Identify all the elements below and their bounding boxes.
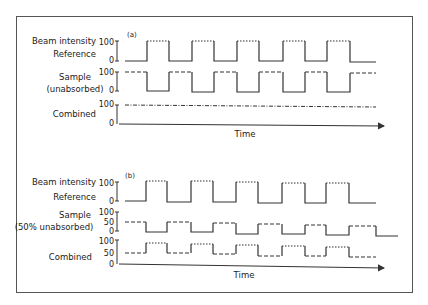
label-beam-intensity-b: Beam intensity: [32, 177, 96, 187]
tick-0: 0: [109, 86, 114, 95]
panel-a-label: (a): [127, 31, 137, 39]
label-combined-b: Combined: [49, 252, 92, 262]
tick-100: 100: [99, 208, 114, 217]
label-sample-a: Sample: [59, 72, 91, 82]
label-beam-intensity-a: Beam intensity: [32, 36, 96, 46]
label-reference-b: Reference: [53, 192, 96, 202]
beam-intensity-diagram: (a) Beam intensity Reference Sample (una…: [0, 0, 428, 305]
tick-100: 100: [99, 38, 114, 47]
tick-0: 0: [109, 197, 114, 206]
tick-0: 0: [109, 227, 114, 236]
panel-b-label: (b): [125, 172, 135, 180]
label-combined-a: Combined: [53, 109, 96, 119]
tick-100: 100: [99, 237, 114, 246]
tick-100: 100: [99, 68, 114, 77]
label-sample-b: Sample: [59, 210, 91, 220]
label-50pct-unabsorbed-b: (50% unabsorbed): [15, 222, 94, 232]
tick-0: 0: [109, 56, 114, 65]
label-reference-a: Reference: [53, 49, 96, 59]
panel-b: (b) Beam intensity Reference Sample (50%…: [15, 172, 398, 280]
x-axis-label-b: Time: [233, 270, 255, 280]
tick-0: 0: [109, 119, 114, 128]
tick-100: 100: [99, 100, 114, 109]
x-axis-label-a: Time: [234, 129, 256, 139]
tick-0: 0: [109, 260, 114, 269]
label-unabsorbed-a: (unabsorbed): [46, 84, 103, 94]
tick-50: 50: [104, 249, 114, 258]
tick-100: 100: [99, 179, 114, 188]
tick-50: 50: [104, 218, 114, 227]
panel-a: (a) Beam intensity Reference Sample (una…: [32, 31, 384, 139]
